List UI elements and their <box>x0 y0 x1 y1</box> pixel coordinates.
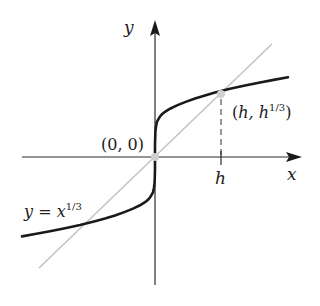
y-axis-label: y <box>123 17 134 37</box>
curve-eq-exp: 1/3 <box>66 201 82 212</box>
curve-eq-x: x <box>57 202 66 221</box>
h-point-exp: 1/3 <box>269 102 285 113</box>
h-point-comma-h: , h <box>249 103 269 122</box>
origin-point <box>151 153 159 161</box>
x-axis-label: x <box>287 164 297 184</box>
h-tick-label: h <box>215 168 226 188</box>
function-graph: y x (0, 0) h (h, h1/3) y = x1/3 <box>0 0 320 306</box>
h-point-close: ) <box>285 103 291 122</box>
h-point <box>217 90 225 98</box>
h-point-label: (h, h1/3) <box>232 102 291 122</box>
h-point-h: h <box>238 103 248 122</box>
curve-equation-label: y = x1/3 <box>23 201 82 221</box>
origin-label: (0, 0) <box>101 135 144 154</box>
curve-eq-equals: = <box>33 202 57 221</box>
